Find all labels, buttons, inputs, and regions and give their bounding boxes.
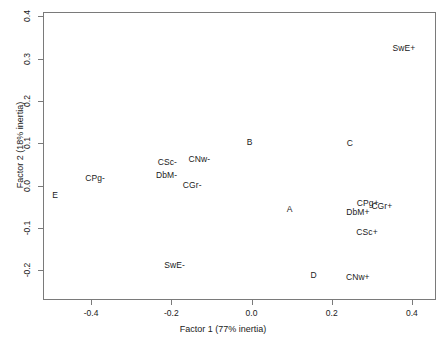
y-axis-tick-label: 0.4 [22,10,32,22]
data-point-label: B [247,137,253,147]
data-point-label: D [311,270,317,280]
y-axis-tick [38,186,43,187]
y-axis-tick [38,270,43,271]
x-axis-tick [412,300,413,305]
data-point-label: CSc+ [356,227,377,237]
data-point-label: CPg- [85,173,105,183]
x-axis-tick [91,300,92,305]
data-point-label: CNw- [189,154,211,164]
x-axis-tick [171,300,172,305]
data-point-label: E [52,190,58,200]
data-point-label: CGr+ [371,201,392,211]
x-axis-tick-label: -0.4 [84,308,99,318]
data-point-label: DbM+ [346,207,369,217]
x-axis-tick [252,300,253,305]
data-point-label: DbM- [156,170,177,180]
y-axis-tick [38,101,43,102]
chart-screenshot: SwE+BCCSc-CNw-DbM-CPg-CGr-EACPg+CGr+DbM+… [0,0,446,347]
y-axis-tick-label: -0.2 [22,263,32,278]
data-point-label: A [287,204,293,214]
y-axis-title: Factor 2 (18% inertia) [15,65,25,225]
data-point-label: CGr- [183,180,202,190]
y-axis-tick [38,143,43,144]
x-axis-tick [332,300,333,305]
x-axis-tick-label: 0.4 [406,308,418,318]
x-axis-tick-label: 0.0 [246,308,258,318]
y-axis-tick [38,228,43,229]
data-point-label: CNw+ [346,272,370,282]
y-axis-tick [38,16,43,17]
y-axis-tick [38,59,43,60]
x-axis-title: Factor 1 (77% inertia) [0,324,446,334]
data-point-label: SwE- [164,260,185,270]
x-axis-tick-label: -0.2 [164,308,179,318]
x-axis-tick-label: 0.2 [326,308,338,318]
y-axis-tick-label: 0.3 [22,53,32,65]
data-point-label: SwE+ [392,43,415,53]
data-points-layer: SwE+BCCSc-CNw-DbM-CPg-CGr-EACPg+CGr+DbM+… [43,12,436,300]
data-point-label: CSc- [158,157,177,167]
data-point-label: C [347,138,353,148]
